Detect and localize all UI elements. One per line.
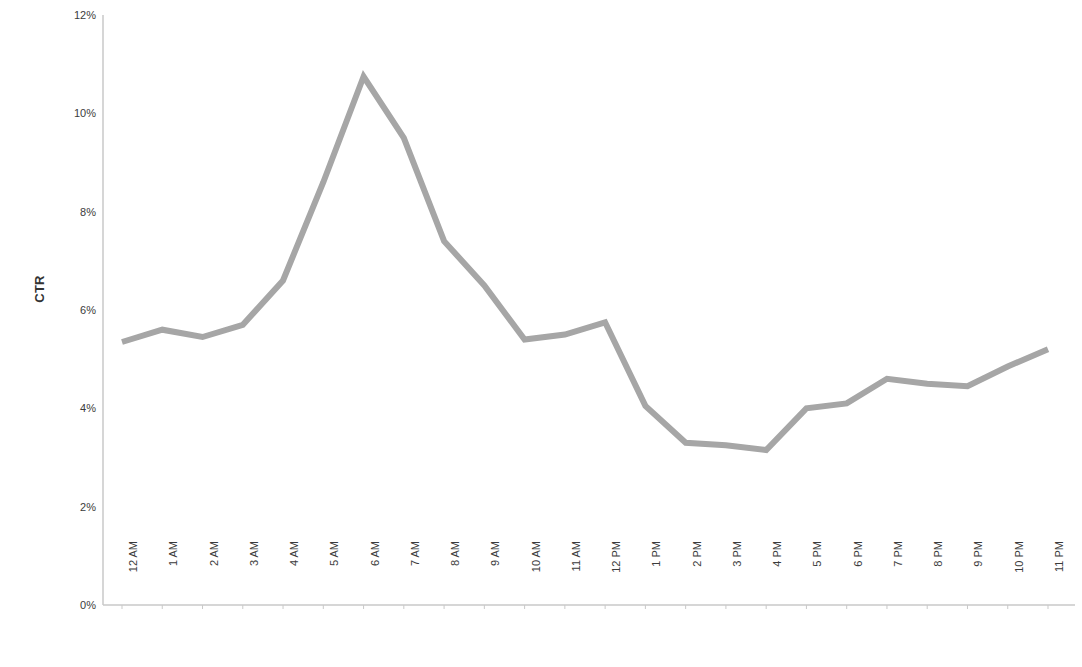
- ctr-data-line: [122, 77, 1048, 451]
- plot-area: [0, 0, 1082, 667]
- ctr-by-hour-line-chart: CTR 0%2%4%6%8%10%12% 12 AM1 AM2 AM3 AM4 …: [0, 0, 1082, 667]
